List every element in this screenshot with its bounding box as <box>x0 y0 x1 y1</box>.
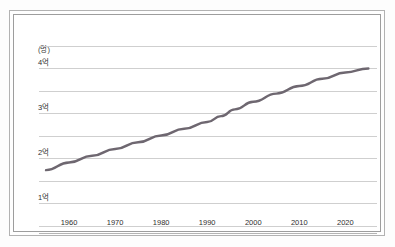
line-series-population <box>32 35 390 241</box>
x-axis-tick-label: 1980 <box>153 218 170 227</box>
plot-area: (명) 1억2억3억4억 196019701980199020002010202… <box>32 35 390 241</box>
series-line-path <box>46 68 368 170</box>
x-axis-tick-label: 1970 <box>107 218 124 227</box>
x-axis-tick-label: 2010 <box>291 218 308 227</box>
chart-figure: (명) 1억2억3억4억 196019701980199020002010202… <box>0 0 395 247</box>
x-axis-tick-label: 2020 <box>337 218 354 227</box>
x-axis-tick-label: 1960 <box>61 218 78 227</box>
x-axis-tick-label: 1990 <box>199 218 216 227</box>
x-axis-tick-label: 2000 <box>245 218 262 227</box>
figure-inner-border: (명) 1억2억3억4억 196019701980199020002010202… <box>13 14 381 232</box>
